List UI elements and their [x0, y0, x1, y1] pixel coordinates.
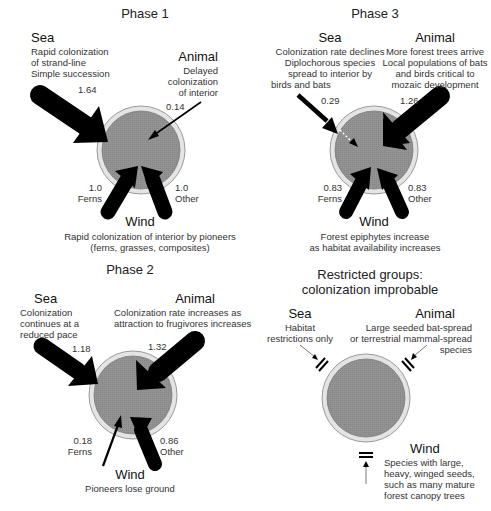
phase3-wind-desc-2: as habitat availability increases	[300, 243, 450, 254]
phase2-sea-desc-3: reduced pace	[20, 330, 78, 341]
phase2-wind-desc-1: Pioneers lose ground	[70, 484, 190, 495]
phase1-animal-label: Animal	[160, 50, 218, 65]
restricted-wind-label: Wind	[410, 442, 440, 457]
phase1-title: Phase 1	[95, 7, 195, 22]
phase3-sea-label: Sea	[290, 31, 370, 46]
phase2-animal-label: Animal	[155, 292, 235, 307]
phase3-animal-desc-4: mozaic development	[380, 80, 490, 91]
phase1-island	[97, 106, 185, 194]
phase1-wind-desc-2: (ferns, grasses, composites)	[40, 243, 260, 254]
phase3-animal-value: 1.26	[400, 96, 419, 107]
restricted-title-1: Restricted groups:	[285, 268, 455, 283]
phase3-wind-label: Wind	[344, 215, 404, 230]
phase1-wind-label: Wind	[110, 215, 170, 230]
restricted-wind-desc-4: forest canopy trees	[384, 491, 465, 502]
phase2-sea-value: 1.18	[72, 344, 91, 355]
restricted-title-2: colonization improbable	[285, 283, 455, 298]
phase2-title: Phase 2	[80, 263, 180, 278]
phase1-sea-desc-3: Simple succession	[31, 69, 110, 80]
phase1-sea-label: Sea	[31, 31, 54, 46]
restricted-animal-label: Animal	[400, 307, 470, 322]
phase1-animal-value: 0.14	[166, 102, 185, 113]
restricted-wind-blocked-arrow-icon	[359, 453, 373, 484]
restricted-animal-desc-3: species	[350, 345, 472, 356]
phase2-animal-desc-2: attraction to frugivores increases	[114, 319, 251, 330]
phase3-sea-value: 0.29	[321, 96, 340, 107]
restricted-sea-blocked-arrow-icon	[300, 345, 328, 371]
phase1-ferns-label: Ferns	[60, 194, 102, 205]
restricted-sea-label: Sea	[270, 307, 330, 322]
phase3-ferns-label: Ferns	[300, 194, 342, 205]
phase2-sea-label: Sea	[34, 292, 57, 307]
phase2-animal-value: 1.32	[148, 342, 167, 353]
phase2-wind-label: Wind	[100, 468, 160, 483]
phase1-other-label: Other	[175, 194, 199, 205]
phase3-sea-desc-4: birds and bats	[271, 80, 331, 91]
phase3-other-label: Other	[408, 194, 432, 205]
phase1-sea-arrow-icon	[40, 95, 108, 143]
restricted-sea-desc-2: restrictions only	[260, 334, 340, 345]
phase3-animal-label: Animal	[395, 31, 475, 46]
phase2-other-label: Other	[160, 447, 184, 458]
phase3-title: Phase 3	[325, 7, 425, 22]
restricted-island	[322, 354, 410, 442]
phase1-animal-desc-3: of interior	[140, 88, 218, 99]
phase2-ferns-label: Ferns	[50, 447, 92, 458]
phase1-sea-value: 1.64	[78, 85, 97, 96]
